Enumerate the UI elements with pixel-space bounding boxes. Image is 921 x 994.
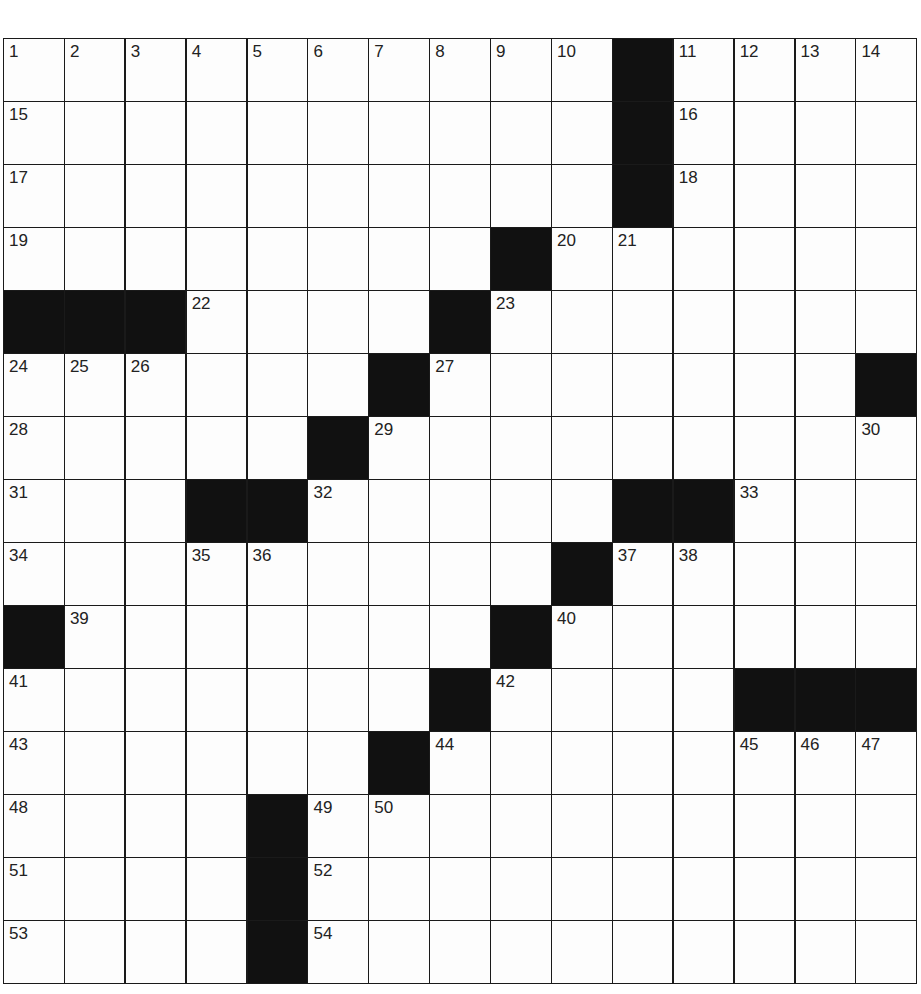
crossword-cell[interactable] xyxy=(65,858,125,920)
crossword-cell[interactable] xyxy=(856,228,916,290)
crossword-cell[interactable] xyxy=(491,795,551,857)
crossword-cell[interactable] xyxy=(735,291,795,353)
crossword-cell[interactable] xyxy=(430,858,490,920)
crossword-cell[interactable] xyxy=(735,858,795,920)
crossword-cell[interactable]: 1 xyxy=(4,39,64,101)
crossword-cell[interactable] xyxy=(552,795,612,857)
crossword-cell[interactable]: 12 xyxy=(735,39,795,101)
crossword-cell[interactable]: 2 xyxy=(65,39,125,101)
crossword-cell[interactable] xyxy=(369,102,429,164)
crossword-cell[interactable] xyxy=(552,669,612,731)
crossword-cell[interactable] xyxy=(674,354,734,416)
crossword-cell[interactable]: 40 xyxy=(552,606,612,668)
crossword-cell[interactable] xyxy=(856,165,916,227)
crossword-cell[interactable]: 4 xyxy=(187,39,247,101)
crossword-cell[interactable]: 19 xyxy=(4,228,64,290)
crossword-cell[interactable] xyxy=(65,228,125,290)
crossword-cell[interactable] xyxy=(552,921,612,983)
crossword-cell[interactable] xyxy=(65,921,125,983)
crossword-cell[interactable] xyxy=(430,228,490,290)
crossword-cell[interactable] xyxy=(613,606,673,668)
crossword-cell[interactable] xyxy=(796,291,856,353)
crossword-cell[interactable] xyxy=(65,165,125,227)
crossword-cell[interactable] xyxy=(248,606,308,668)
crossword-cell[interactable]: 29 xyxy=(369,417,429,479)
crossword-cell[interactable]: 50 xyxy=(369,795,429,857)
crossword-cell[interactable] xyxy=(308,606,368,668)
crossword-cell[interactable]: 49 xyxy=(308,795,368,857)
crossword-cell[interactable] xyxy=(552,165,612,227)
crossword-cell[interactable] xyxy=(65,795,125,857)
crossword-cell[interactable]: 30 xyxy=(856,417,916,479)
crossword-cell[interactable] xyxy=(126,795,186,857)
crossword-cell[interactable] xyxy=(796,921,856,983)
crossword-cell[interactable] xyxy=(796,606,856,668)
crossword-cell[interactable] xyxy=(552,102,612,164)
crossword-cell[interactable] xyxy=(796,102,856,164)
crossword-cell[interactable]: 18 xyxy=(674,165,734,227)
crossword-cell[interactable] xyxy=(369,606,429,668)
crossword-cell[interactable] xyxy=(856,291,916,353)
crossword-cell[interactable] xyxy=(491,858,551,920)
crossword-cell[interactable] xyxy=(613,858,673,920)
crossword-cell[interactable] xyxy=(796,543,856,605)
crossword-cell[interactable] xyxy=(856,795,916,857)
crossword-cell[interactable] xyxy=(369,480,429,542)
crossword-cell[interactable] xyxy=(674,606,734,668)
crossword-cell[interactable] xyxy=(613,291,673,353)
crossword-cell[interactable] xyxy=(248,291,308,353)
crossword-cell[interactable] xyxy=(491,165,551,227)
crossword-cell[interactable] xyxy=(248,165,308,227)
crossword-cell[interactable] xyxy=(369,921,429,983)
crossword-cell[interactable] xyxy=(856,858,916,920)
crossword-cell[interactable] xyxy=(552,291,612,353)
crossword-cell[interactable] xyxy=(856,606,916,668)
crossword-cell[interactable]: 25 xyxy=(65,354,125,416)
crossword-cell[interactable] xyxy=(308,165,368,227)
crossword-cell[interactable] xyxy=(308,543,368,605)
crossword-cell[interactable] xyxy=(430,417,490,479)
crossword-cell[interactable] xyxy=(430,165,490,227)
crossword-cell[interactable] xyxy=(674,291,734,353)
crossword-cell[interactable] xyxy=(796,795,856,857)
crossword-cell[interactable] xyxy=(308,732,368,794)
crossword-cell[interactable] xyxy=(126,669,186,731)
crossword-cell[interactable]: 13 xyxy=(796,39,856,101)
crossword-cell[interactable] xyxy=(308,102,368,164)
crossword-cell[interactable]: 17 xyxy=(4,165,64,227)
crossword-cell[interactable] xyxy=(65,543,125,605)
crossword-cell[interactable]: 42 xyxy=(491,669,551,731)
crossword-cell[interactable]: 26 xyxy=(126,354,186,416)
crossword-cell[interactable] xyxy=(187,102,247,164)
crossword-cell[interactable] xyxy=(552,354,612,416)
crossword-cell[interactable] xyxy=(613,732,673,794)
crossword-cell[interactable] xyxy=(674,669,734,731)
crossword-cell[interactable]: 33 xyxy=(735,480,795,542)
crossword-cell[interactable] xyxy=(248,417,308,479)
crossword-cell[interactable] xyxy=(126,543,186,605)
crossword-cell[interactable] xyxy=(430,102,490,164)
crossword-cell[interactable] xyxy=(796,858,856,920)
crossword-cell[interactable] xyxy=(248,669,308,731)
crossword-cell[interactable]: 20 xyxy=(552,228,612,290)
crossword-cell[interactable] xyxy=(856,543,916,605)
crossword-cell[interactable]: 24 xyxy=(4,354,64,416)
crossword-cell[interactable] xyxy=(613,354,673,416)
crossword-cell[interactable] xyxy=(613,921,673,983)
crossword-cell[interactable] xyxy=(613,417,673,479)
crossword-cell[interactable] xyxy=(613,669,673,731)
crossword-cell[interactable]: 10 xyxy=(552,39,612,101)
crossword-cell[interactable] xyxy=(126,102,186,164)
crossword-cell[interactable] xyxy=(126,732,186,794)
crossword-cell[interactable]: 7 xyxy=(369,39,429,101)
crossword-cell[interactable] xyxy=(491,732,551,794)
crossword-cell[interactable] xyxy=(248,732,308,794)
crossword-cell[interactable]: 35 xyxy=(187,543,247,605)
crossword-cell[interactable]: 15 xyxy=(4,102,64,164)
crossword-cell[interactable] xyxy=(65,669,125,731)
crossword-cell[interactable] xyxy=(491,480,551,542)
crossword-cell[interactable]: 8 xyxy=(430,39,490,101)
crossword-cell[interactable]: 53 xyxy=(4,921,64,983)
crossword-cell[interactable] xyxy=(187,921,247,983)
crossword-cell[interactable] xyxy=(796,417,856,479)
